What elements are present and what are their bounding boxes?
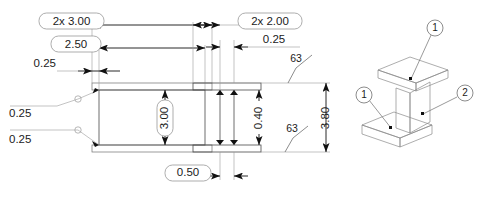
side-fillet-tr bbox=[230, 90, 238, 95]
leader-arrow-upper bbox=[93, 88, 100, 94]
engineering-drawing-canvas: 2x 3.00 2.50 0.25 3.00 bbox=[0, 0, 492, 198]
dim-label-fillet-upper-0-25: 0.25 bbox=[9, 107, 31, 119]
dim-label-2-50: 2.50 bbox=[65, 38, 87, 50]
dim-label-0-50: 0.50 bbox=[177, 166, 199, 178]
side-fillet-bl bbox=[216, 140, 224, 145]
dim-label-0-40: 0.40 bbox=[252, 107, 264, 129]
balloon-bottom-flange[interactable]: 1 bbox=[356, 87, 392, 129]
dim-front-width-mid: 2.50 bbox=[51, 36, 205, 52]
side-view-bottom-flange bbox=[193, 145, 261, 152]
balloon-web-value: 2 bbox=[462, 87, 468, 98]
dim-side-flange-thickness: 0.40 bbox=[252, 90, 264, 145]
dim-label-3-80: 3.80 bbox=[319, 107, 331, 129]
side-view bbox=[193, 22, 330, 180]
balloon-web-leader bbox=[423, 97, 457, 114]
dim-label-fillet-lower-0-25: 0.25 bbox=[9, 133, 31, 145]
leader-fillet-upper: 0.25 bbox=[9, 88, 99, 119]
dim-label-front-0-25: 0.25 bbox=[34, 57, 56, 69]
iso-top-flange-top-face bbox=[378, 57, 448, 83]
side-fillet-tl bbox=[216, 90, 224, 95]
balloon-web-anchor-dot bbox=[421, 112, 424, 115]
front-view bbox=[92, 22, 212, 152]
surface-finish-upper-value: 63 bbox=[290, 52, 302, 64]
balloon-top-flange[interactable]: 1 bbox=[409, 20, 443, 80]
balloon-bottom-anchor-dot bbox=[389, 126, 392, 129]
dim-label-2x-2-00: 2x 2.00 bbox=[251, 15, 289, 27]
iso-bottom-flange-top-face bbox=[362, 112, 432, 138]
balloon-top-leader bbox=[411, 33, 432, 79]
iso-top-flange-front-face bbox=[378, 70, 416, 91]
iso-bottom-flange-right-face bbox=[400, 125, 432, 147]
balloon-bottom-value: 1 bbox=[361, 89, 367, 100]
iso-web-front-face bbox=[396, 88, 410, 133]
front-view-bottom-flange bbox=[92, 145, 212, 152]
leader-fillet-lower: 0.25 bbox=[9, 127, 99, 147]
balloon-top-value: 1 bbox=[432, 22, 438, 33]
front-view-body bbox=[99, 90, 205, 145]
side-view-top-flange bbox=[193, 83, 261, 90]
balloon-web[interactable]: 2 bbox=[421, 85, 473, 115]
dim-web-thickness: 0.50 bbox=[165, 165, 248, 181]
iso-top-flange-right-face bbox=[416, 70, 448, 91]
iso-bottom-flange-front-face bbox=[362, 125, 400, 147]
surface-finish-upper: 63 bbox=[288, 52, 312, 83]
surface-finish-lower: 63 bbox=[285, 122, 308, 152]
drawing-sheet: 2x 3.00 2.50 0.25 3.00 bbox=[0, 0, 492, 198]
dim-label-side-0-25: 0.25 bbox=[263, 33, 285, 45]
dim-front-height: 3.00 bbox=[157, 90, 173, 145]
dim-front-flange-step: 0.25 bbox=[34, 57, 120, 71]
dim-label-3-00: 3.00 bbox=[158, 107, 170, 129]
dim-side-total-height: 3.80 bbox=[319, 83, 331, 152]
dim-side-width-2x: 2x 2.00 bbox=[193, 13, 302, 29]
front-view-top-flange bbox=[92, 83, 212, 90]
surface-finish-lower-value: 63 bbox=[286, 122, 298, 134]
side-fillet-br bbox=[230, 140, 238, 145]
isometric-view bbox=[362, 57, 448, 147]
dim-label-2x-3-00: 2x 3.00 bbox=[53, 15, 91, 27]
balloon-top-anchor-dot bbox=[409, 77, 412, 80]
dim-front-width-2x: 2x 3.00 bbox=[39, 13, 212, 29]
balloon-bottom-leader bbox=[369, 100, 391, 128]
